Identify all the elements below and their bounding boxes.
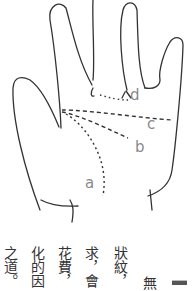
text-column-5: 之道。 bbox=[1, 246, 17, 288]
label-c: c bbox=[147, 117, 155, 132]
text-extra-char: 無 bbox=[140, 276, 156, 290]
label-d: d bbox=[130, 88, 140, 103]
text-column-1: 狀紋， bbox=[111, 246, 127, 288]
hand-diagram bbox=[0, 0, 193, 230]
label-b: b bbox=[135, 140, 145, 155]
label-a: a bbox=[85, 176, 94, 191]
palm-lines bbox=[62, 95, 172, 196]
text-column-2: 求，會 bbox=[82, 246, 98, 288]
text-column-3: 花費， bbox=[55, 246, 71, 288]
dash-mark bbox=[172, 280, 187, 285]
text-column-4: 化的因 bbox=[28, 246, 44, 288]
hand-outline bbox=[13, 0, 183, 222]
